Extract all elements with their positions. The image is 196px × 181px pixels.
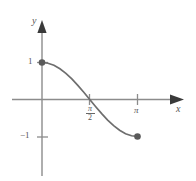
y-axis-label: y [32,16,36,26]
curve-start-point [39,59,46,66]
graph-figure: y x 1 −1 π 2 π [0,0,196,181]
pi-over-2-denominator: 2 [82,114,98,122]
y-axis-arrowhead [37,20,46,33]
coordinate-plane [0,0,196,181]
x-tick-label-pi-over-2: π 2 [82,105,98,123]
pi-over-2-numerator: π [82,105,98,113]
y-tick-label-negative-one: −1 [20,131,30,140]
y-tick-label-one: 1 [28,57,33,66]
x-tick-label-pi: π [134,106,139,115]
curve-end-point [134,133,141,140]
x-axis-label: x [176,104,180,114]
